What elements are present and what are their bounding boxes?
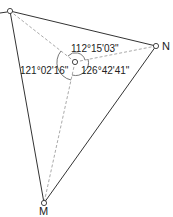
edge-a-n [10,11,156,46]
label-m: M [39,205,48,217]
station-o [72,59,77,64]
angle-label-a-o-n: 112°15'03" [71,43,119,54]
survey-diagram: N M 121°02'16" 112°15'03" 126°42'41" [0,0,173,217]
edge-a-stub [0,12,7,13]
edge-a-m [10,11,44,203]
station-n [153,43,158,48]
angle-label-n-o-m: 126°42'41" [81,65,130,76]
station-a [7,8,12,13]
label-n: N [162,40,170,52]
angle-label-a-o-m: 121°02'16" [20,65,69,76]
